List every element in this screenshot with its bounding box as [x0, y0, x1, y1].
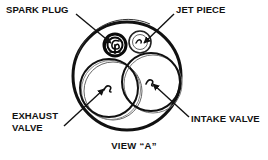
diagram-page: SPARK PLUG JET PIECE EXHAUSTVALVE INTAKE… [0, 0, 268, 160]
callout-label-intake-valve: INTAKE VALVE [191, 113, 260, 125]
combustion-chamber-diagram [0, 0, 268, 160]
intake-valve-circle [122, 53, 180, 111]
callout-label-exhaust-valve-line2: VALVE [12, 122, 43, 133]
callout-label-exhaust-valve-line1: EXHAUST [12, 110, 58, 121]
callout-label-jet-piece: JET PIECE [176, 4, 225, 16]
callout-label-exhaust-valve: EXHAUSTVALVE [12, 110, 58, 133]
callout-label-spark-plug: SPARK PLUG [6, 4, 69, 16]
spark-plug-group [104, 34, 126, 56]
jet-piece-group [129, 31, 151, 53]
diagram-caption: VIEW “A” [0, 140, 268, 151]
